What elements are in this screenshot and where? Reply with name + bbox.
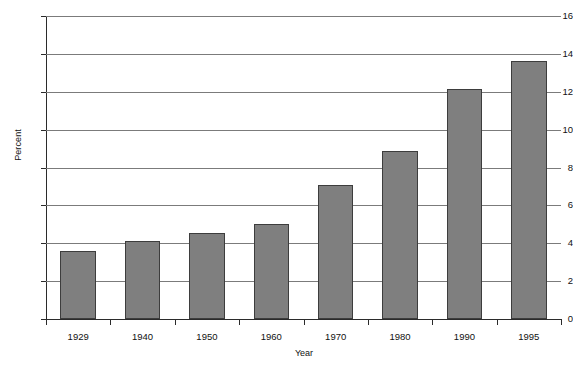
bar-1960[interactable] [254, 224, 289, 319]
bar-1950[interactable] [189, 233, 224, 319]
x-tick-label-1970: 1970 [304, 331, 368, 342]
bars-layer [46, 16, 561, 319]
bar-slot [432, 16, 496, 319]
x-tick-mark-3 [239, 320, 240, 325]
bar-1970[interactable] [318, 185, 353, 319]
x-tick-label-1940: 1940 [110, 331, 174, 342]
y-axis-title: Percent [13, 95, 23, 195]
x-tick-label-1990: 1990 [432, 331, 496, 342]
x-tick-mark-5 [368, 320, 369, 325]
bar-slot [110, 16, 174, 319]
bar-slot [368, 16, 432, 319]
x-tick-mark-8 [561, 320, 562, 325]
bar-slot [304, 16, 368, 319]
bar-1929[interactable] [60, 251, 95, 319]
bar-1940[interactable] [125, 241, 160, 319]
x-axis-title: Year [46, 348, 562, 358]
x-tick-label-1995: 1995 [497, 331, 561, 342]
bar-1990[interactable] [447, 89, 482, 319]
x-tick-mark-7 [497, 320, 498, 325]
x-tick-label-1950: 1950 [175, 331, 239, 342]
x-tick-mark-6 [432, 320, 433, 325]
x-tick-mark-2 [175, 320, 176, 325]
x-tick-mark-1 [110, 320, 111, 325]
bar-1980[interactable] [382, 151, 417, 319]
bar-1995[interactable] [511, 61, 546, 319]
bar-slot [239, 16, 303, 319]
bar-slot [497, 16, 561, 319]
x-tick-label-1929: 1929 [46, 331, 110, 342]
x-tick-label-1980: 1980 [368, 331, 432, 342]
x-tick-label-1960: 1960 [239, 331, 303, 342]
bar-chart: Percent 1614121086420 192919401950196019… [0, 0, 573, 365]
x-tick-mark-4 [304, 320, 305, 325]
bar-slot [46, 16, 110, 319]
x-tick-mark-0 [46, 320, 47, 325]
bar-slot [175, 16, 239, 319]
